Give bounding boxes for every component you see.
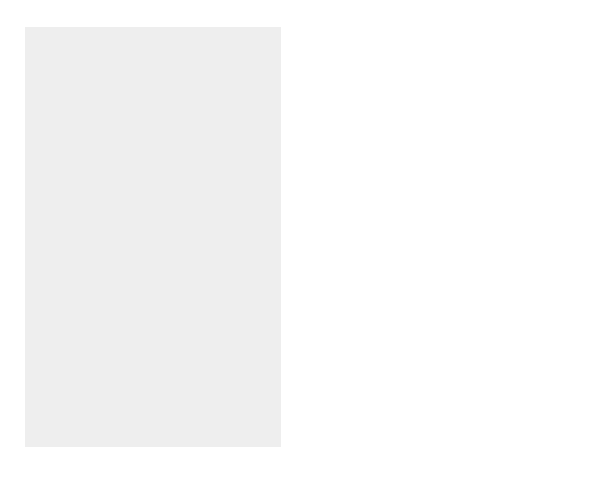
us-population-change-map bbox=[0, 0, 603, 481]
